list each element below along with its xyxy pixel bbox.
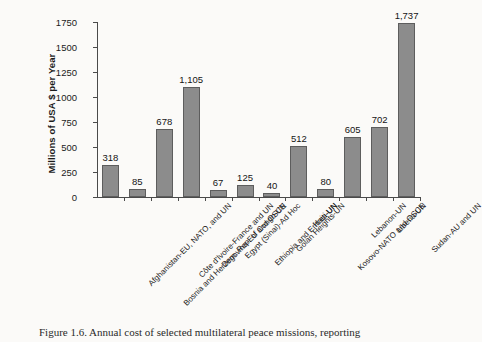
figure-caption: Figure 1.6. Annual cost of selected mult… [39, 326, 429, 339]
bar [156, 129, 173, 197]
bar [263, 193, 280, 197]
plot-area: 02505007501000125015001750 318856781,105… [97, 22, 420, 197]
y-tick [93, 47, 97, 48]
y-tick-label: 0 [37, 193, 77, 203]
x-category-label: Sudan-AU and UN [430, 202, 482, 255]
bar [129, 189, 146, 198]
y-tick-label: 1250 [37, 68, 77, 78]
bar [210, 190, 227, 197]
x-tick [393, 197, 394, 201]
bar-value-label: 605 [331, 125, 375, 135]
x-tick [232, 197, 233, 201]
y-tick [93, 122, 97, 123]
y-tick-label: 750 [37, 118, 77, 128]
x-tick [285, 197, 286, 201]
bar-value-label: 702 [358, 115, 402, 125]
y-tick-label: 1500 [37, 43, 77, 53]
x-category-label: Afghanistan-EU, NATO, and UN [148, 202, 234, 288]
x-tick [312, 197, 313, 201]
bar [290, 146, 307, 197]
y-tick [93, 197, 97, 198]
x-tick [124, 197, 125, 201]
x-tick [366, 197, 367, 201]
bar [317, 189, 334, 197]
bar-value-label: 85 [115, 177, 159, 187]
bar [344, 137, 361, 198]
x-tick [178, 197, 179, 201]
y-tick [93, 72, 97, 73]
bar-value-label: 678 [142, 117, 186, 127]
bar-value-label: 40 [250, 181, 294, 191]
bar-value-label: 1,105 [169, 75, 213, 85]
bar-value-label: 80 [304, 177, 348, 187]
bar-value-label: 512 [277, 134, 321, 144]
y-tick [93, 22, 97, 23]
y-tick [93, 97, 97, 98]
y-tick [93, 172, 97, 173]
x-tick [259, 197, 260, 201]
y-axis-line [97, 22, 98, 198]
x-tick [205, 197, 206, 201]
bar-value-label: 1,737 [385, 11, 429, 21]
x-category-label: Golan Heights-UN [295, 202, 347, 254]
y-tick-label: 1750 [37, 18, 77, 28]
bar [398, 23, 415, 197]
bar [371, 127, 388, 197]
x-tick [151, 197, 152, 201]
y-tick-label: 1000 [37, 93, 77, 103]
y-tick-label: 250 [37, 168, 77, 178]
bar-value-label: 318 [88, 153, 132, 163]
y-tick [93, 147, 97, 148]
y-tick-label: 500 [37, 143, 77, 153]
